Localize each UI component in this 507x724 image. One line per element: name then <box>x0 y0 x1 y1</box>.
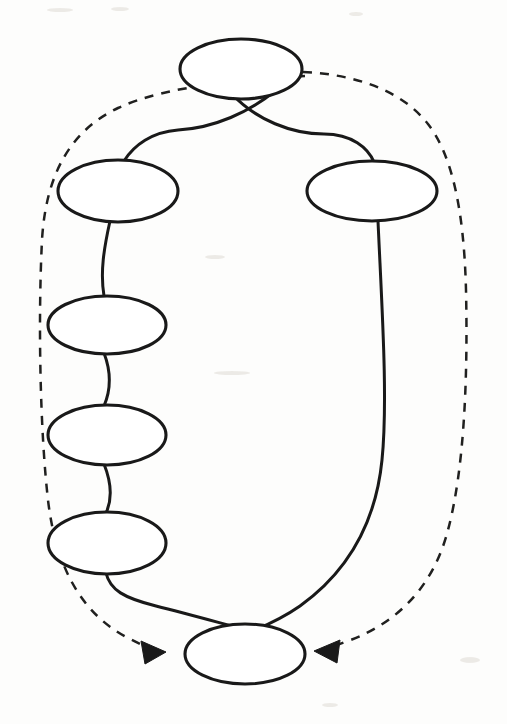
sketch-svg <box>0 0 507 724</box>
solid-edge-right-to-bottom[interactable] <box>240 221 385 636</box>
arrowhead-left <box>141 641 166 664</box>
node-ellipse-top[interactable] <box>180 39 302 99</box>
solid-edge-l2-to-l3[interactable] <box>104 353 109 406</box>
node-ellipse-left-2[interactable] <box>48 296 166 354</box>
arrowhead-right <box>314 640 340 663</box>
solid-edge-top-to-left[interactable] <box>124 90 276 161</box>
node-ellipse-bottom[interactable] <box>185 624 305 684</box>
node-ellipse-left-3[interactable] <box>48 405 166 465</box>
solid-edge-l1-to-l2[interactable] <box>102 221 110 296</box>
solid-edge-l3-to-l4[interactable] <box>104 464 110 513</box>
node-ellipse-left-4[interactable] <box>48 512 166 574</box>
paper-texture <box>47 7 480 707</box>
node-ellipse-right-1[interactable] <box>307 161 437 221</box>
node-ellipse-left-1[interactable] <box>58 160 178 222</box>
solid-edge-top-to-right[interactable] <box>232 94 374 162</box>
diagram-canvas <box>0 0 507 724</box>
